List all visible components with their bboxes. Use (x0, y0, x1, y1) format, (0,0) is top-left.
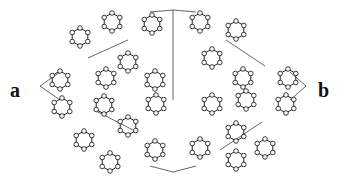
unit-cell-line (150, 10, 173, 12)
unit-cell-line (94, 110, 133, 130)
hexagonal-ring (190, 11, 210, 34)
hexagonal-ring (94, 94, 114, 117)
hexagonal-ring (142, 13, 162, 36)
hexagonal-ring (236, 89, 256, 112)
unit-cell-line (150, 166, 173, 172)
unit-cell-line (88, 40, 128, 58)
hexagonal-ring (276, 93, 296, 116)
hexagonal-ring (50, 69, 70, 92)
unit-cell-line (173, 166, 196, 172)
hexagonal-ring (190, 137, 210, 160)
hexagonal-ring (226, 149, 246, 172)
hexagonal-ring (118, 51, 138, 74)
unit-cell-line (40, 86, 60, 100)
hexagonal-ring (226, 121, 246, 144)
hexagonal-ring (233, 67, 253, 90)
hexagonal-ring (100, 151, 120, 174)
axis-label-b: b (318, 80, 329, 100)
hexagonal-ring (96, 67, 116, 90)
hexagonal-ring (278, 67, 298, 90)
axis-label-a: a (10, 80, 20, 100)
unit-cell-line (173, 10, 196, 12)
hexagonal-ring (226, 19, 246, 42)
hexagonal-ring (118, 115, 138, 138)
hexagonal-ring (74, 129, 94, 152)
hexagonal-ring (102, 11, 122, 34)
unit-cell-line (226, 40, 265, 66)
hexagonal-ring (255, 137, 275, 160)
hexagonal-ring (52, 96, 72, 119)
hexagonal-ring (202, 93, 222, 116)
hexagonal-ring (145, 69, 165, 92)
hexagonal-ring (202, 47, 222, 70)
hexagonal-ring (145, 139, 165, 162)
hexagonal-ring (70, 26, 90, 49)
hexagonal-ring (146, 93, 166, 116)
crystal-packing-diagram (0, 0, 346, 182)
